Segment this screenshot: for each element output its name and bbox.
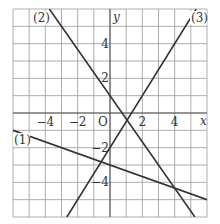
x-tick-label: 2 — [139, 115, 147, 129]
x-axis-label: x — [200, 114, 207, 128]
y-tick-label: −2 — [91, 141, 109, 155]
x-tick-label: −2 — [69, 115, 87, 129]
coordinate-graph: x y O −4−22442−2−4(1)(2)(3) — [0, 0, 220, 224]
origin-label: O — [98, 115, 108, 129]
y-tick-label: 2 — [101, 71, 109, 85]
y-tick-label: −4 — [91, 175, 109, 189]
series-label-2: (2) — [33, 11, 50, 25]
series-label-3: (3) — [191, 11, 208, 25]
series-label-1: (1) — [14, 133, 31, 147]
axes — [13, 9, 207, 217]
y-tick-label: 4 — [101, 37, 109, 51]
x-tick-label: 4 — [171, 115, 179, 129]
y-axis-label: y — [112, 10, 120, 24]
x-tick-label: −4 — [36, 115, 54, 129]
